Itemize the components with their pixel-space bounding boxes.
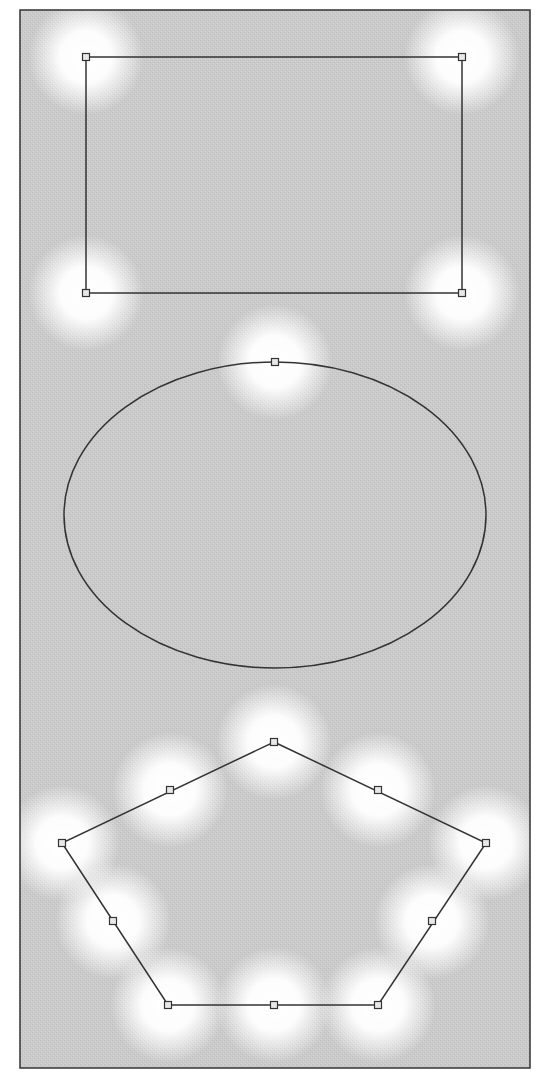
pentagon-handle[interactable] [271, 1002, 278, 1009]
pentagon-handle[interactable] [483, 840, 490, 847]
ellipse-handle[interactable] [272, 359, 279, 366]
drawing-canvas[interactable] [0, 0, 546, 1078]
canvas-frame [4, 0, 544, 1068]
pentagon-handle[interactable] [165, 1002, 172, 1009]
rectangle-handle[interactable] [83, 54, 90, 61]
pentagon-handle[interactable] [59, 840, 66, 847]
pentagon-handle[interactable] [429, 918, 436, 925]
pentagon-handle[interactable] [375, 787, 382, 794]
pentagon-handle[interactable] [167, 787, 174, 794]
pentagon-handle[interactable] [375, 1002, 382, 1009]
pentagon-handle[interactable] [271, 739, 278, 746]
rectangle-handle[interactable] [459, 54, 466, 61]
rectangle-handle[interactable] [459, 290, 466, 297]
rectangle-handle[interactable] [83, 290, 90, 297]
pentagon-handle[interactable] [110, 918, 117, 925]
